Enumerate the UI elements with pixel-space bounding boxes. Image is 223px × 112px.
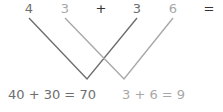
ones-connector-line — [65, 18, 173, 79]
ones-result: 3 + 6 = 9 — [122, 87, 185, 103]
tens-connector-line — [29, 18, 137, 79]
digit-6-ones: 6 — [169, 2, 177, 16]
digit-3-tens: 3 — [133, 2, 141, 16]
plus-sign: + — [96, 2, 107, 16]
equals-sign: = — [204, 2, 215, 16]
tens-result: 40 + 30 = 70 — [8, 87, 96, 103]
digit-4-tens: 4 — [25, 2, 33, 16]
addition-diagram: 4 3 + 3 6 = 40 + 30 = 70 3 + 6 = 9 — [0, 0, 223, 112]
digit-3-ones: 3 — [61, 2, 69, 16]
